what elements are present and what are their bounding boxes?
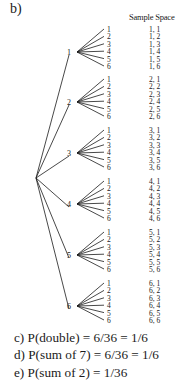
branch-6-5 <box>77 306 104 313</box>
branch-6-6 <box>77 306 104 320</box>
sample-outcome-2-6: 2, 6 <box>149 112 161 121</box>
answer-c: c) P(double) = 6/36 = 1/6 <box>14 329 159 346</box>
branch-4-3 <box>77 196 104 204</box>
sample-outcome-4-6: 4, 6 <box>149 214 161 223</box>
branch-5-1 <box>77 232 104 255</box>
branch-5-2 <box>77 239 104 255</box>
branch-1-2 <box>77 36 104 52</box>
branch-6-4 <box>77 305 104 306</box>
branch-2-4 <box>77 101 104 102</box>
first-roll-label-3: 3 <box>67 149 71 158</box>
branch-2-3 <box>77 94 104 102</box>
second-roll-label-2-6: 6 <box>107 112 111 121</box>
first-roll-label-4: 4 <box>67 200 71 209</box>
branch-4-4 <box>77 203 104 204</box>
branch-1-6 <box>77 52 104 66</box>
answers: c) P(double) = 6/36 = 1/6 d) P(sum of 7)… <box>14 329 159 381</box>
branch-2-6 <box>77 102 104 116</box>
first-roll-label-1: 1 <box>67 48 71 57</box>
branch-2-2 <box>77 86 104 102</box>
sample-outcome-5-6: 5, 6 <box>149 265 161 274</box>
sample-outcome-1-6: 1, 6 <box>149 62 161 71</box>
branch-1-4 <box>77 51 104 52</box>
branch-4-5 <box>77 204 104 211</box>
branch-3-4 <box>77 152 104 153</box>
branch-5-6 <box>77 255 104 269</box>
branch-6-3 <box>77 298 104 306</box>
answer-e: e) P(sum of 2) = 1/36 <box>14 364 159 381</box>
branch-2-1 <box>77 79 104 102</box>
branch-1-1 <box>77 29 104 52</box>
branch-5-4 <box>77 254 104 255</box>
branch-2-5 <box>77 102 104 109</box>
branch-4-2 <box>77 188 104 204</box>
sample-outcome-6-6: 6, 6 <box>149 316 161 325</box>
branch-root-to-5 <box>36 178 69 258</box>
branch-4-1 <box>77 181 104 204</box>
second-roll-label-4-6: 6 <box>107 214 111 223</box>
branch-3-6 <box>77 153 104 167</box>
branch-6-2 <box>77 290 104 306</box>
branch-3-5 <box>77 153 104 160</box>
branch-5-5 <box>77 255 104 262</box>
sample-outcome-3-6: 3, 6 <box>149 163 161 172</box>
branch-root-to-4 <box>36 178 69 207</box>
branch-5-3 <box>77 247 104 255</box>
branch-1-5 <box>77 52 104 59</box>
second-roll-label-3-6: 6 <box>107 163 111 172</box>
branch-root-to-6 <box>36 178 69 309</box>
branch-3-3 <box>77 145 104 153</box>
answer-d: d) P(sum of 7) = 6/36 = 1/6 <box>14 346 159 363</box>
branch-6-1 <box>77 283 104 306</box>
second-roll-label-5-6: 6 <box>107 265 111 274</box>
first-roll-label-6: 6 <box>67 302 71 311</box>
tree-diagram: 111, 121, 231, 341, 451, 561, 6212, 122,… <box>0 0 186 330</box>
branch-4-6 <box>77 204 104 218</box>
branch-3-2 <box>77 137 104 153</box>
second-roll-label-1-6: 6 <box>107 62 111 71</box>
first-roll-label-5: 5 <box>67 251 71 260</box>
second-roll-label-6-6: 6 <box>107 316 111 325</box>
first-roll-label-2: 2 <box>67 98 71 107</box>
branch-3-1 <box>77 130 104 153</box>
branch-1-3 <box>77 44 104 52</box>
